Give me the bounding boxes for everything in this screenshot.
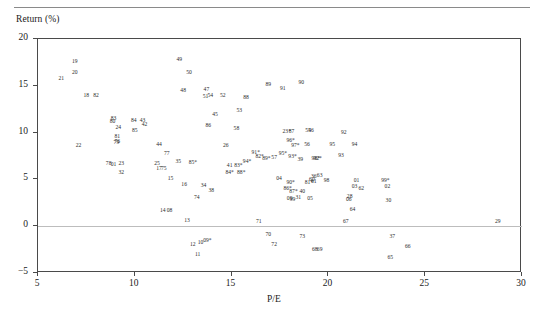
data-point-label: 35 <box>176 160 182 166</box>
data-point-label: 45 <box>212 112 218 118</box>
y-tick-mark <box>33 178 38 179</box>
data-point-label: 29 <box>495 219 501 225</box>
data-point-label: 08 <box>167 208 173 214</box>
data-point-label: 31 <box>296 195 302 201</box>
data-point-label: 04 <box>276 177 282 183</box>
data-point-label: 85 <box>132 128 138 134</box>
data-point-label: 65 <box>388 255 394 261</box>
data-point-label: 39 <box>297 157 303 163</box>
y-tick-label: 10 <box>2 126 28 136</box>
data-point-label: 19 <box>72 60 78 66</box>
data-point-label: 73 <box>299 235 305 241</box>
data-point-label: 95 <box>329 142 335 148</box>
data-point-label: 48 <box>180 89 186 95</box>
data-point-label: 50 <box>186 70 192 76</box>
x-tick-label: 15 <box>216 278 246 288</box>
data-point-label: 12 <box>190 242 196 248</box>
y-tick-label: 20 <box>2 32 28 42</box>
x-tick-mark <box>37 272 38 276</box>
data-point-label: 87 <box>289 129 295 135</box>
data-point-label: 37 <box>389 235 395 241</box>
y-tick-label: −5 <box>2 266 28 276</box>
data-point-label: 82 <box>93 93 99 99</box>
data-point-label: 24 <box>116 125 122 131</box>
data-point-label: 11 <box>195 252 200 258</box>
data-point-label: 01 <box>111 162 117 168</box>
data-point-label: 32 <box>118 170 124 176</box>
data-point-label: 09* <box>203 238 211 244</box>
y-tick-label: 0 <box>2 219 28 229</box>
data-point-label: 75 <box>161 166 167 172</box>
data-point-label: 64 <box>350 207 356 213</box>
data-point-label: 06 <box>346 197 352 203</box>
data-point-label: 46 <box>308 128 314 134</box>
data-point-label: 91 <box>280 87 286 93</box>
data-point-label: 71 <box>256 220 262 226</box>
x-tick-mark <box>521 272 522 276</box>
data-point-label: 22 <box>76 143 82 149</box>
data-point-label: 70 <box>266 233 272 239</box>
data-point-label: 77 <box>164 151 170 157</box>
data-point-label: 66 <box>405 244 411 250</box>
data-point-label: 26 <box>223 143 229 149</box>
data-point-label: 90 <box>298 80 304 86</box>
data-point-label: 92* <box>314 156 322 162</box>
data-point-label: 42 <box>142 122 148 128</box>
data-point-label: 14 <box>160 208 166 214</box>
data-point-label: 05 <box>307 196 313 202</box>
scatter-plot-figure: Return (%) 20151050−5 51015202530 211920… <box>0 0 543 314</box>
data-point-label: 16 <box>181 182 187 188</box>
data-point-label: 58 <box>234 126 240 132</box>
data-point-label: 23 <box>118 162 124 168</box>
data-point-label: 79 <box>114 140 120 146</box>
data-point-label: 97* <box>291 143 299 149</box>
x-tick-mark <box>327 272 328 276</box>
data-point-label: 67 <box>343 220 349 226</box>
data-point-label: 93* <box>288 154 296 160</box>
y-tick-mark <box>33 132 38 133</box>
data-point-label: 72 <box>271 242 277 248</box>
y-tick-label: 5 <box>2 172 28 182</box>
zero-reference-line <box>38 226 522 227</box>
x-tick-label: 30 <box>506 278 536 288</box>
data-point-label: 84 <box>131 119 137 125</box>
data-point-label: 20 <box>72 70 78 76</box>
data-point-label: 85* <box>189 161 197 167</box>
x-tick-label: 25 <box>409 278 439 288</box>
data-point-label: 30 <box>386 198 392 204</box>
data-point-label: 13 <box>184 218 190 224</box>
data-point-label: 52 <box>220 93 226 99</box>
header-rule <box>14 7 530 8</box>
data-point-label: 94 <box>352 142 358 148</box>
data-point-label: 69 <box>317 247 323 253</box>
data-point-label: 88 <box>243 95 249 101</box>
data-point-label: 49 <box>176 58 182 64</box>
data-point-label: 56 <box>304 142 310 148</box>
data-point-label: 15 <box>168 177 174 183</box>
data-point-label: 02 <box>385 184 391 190</box>
data-point-label: 54 <box>207 93 213 99</box>
data-point-label: 44 <box>156 142 162 148</box>
y-axis-label: Return (%) <box>16 14 59 24</box>
data-point-label: 18 <box>84 93 90 99</box>
data-point-label: 99 <box>290 197 296 203</box>
data-point-label: 57 <box>271 155 277 161</box>
data-point-label: 34 <box>201 183 207 189</box>
data-point-label: 21 <box>58 76 64 82</box>
data-point-label: 38 <box>208 188 214 194</box>
data-point-label: 63 <box>317 173 323 179</box>
x-tick-label: 20 <box>312 278 342 288</box>
x-tick-mark <box>424 272 425 276</box>
data-point-label: 74 <box>194 195 200 201</box>
data-point-label: 81* <box>305 180 313 186</box>
data-point-label: 93 <box>338 153 344 159</box>
data-point-label: 89 <box>266 82 272 88</box>
data-point-label: 80 <box>110 119 116 125</box>
data-point-label: 94* <box>243 159 251 165</box>
data-point-label: 03 <box>352 184 358 190</box>
y-tick-mark <box>33 225 38 226</box>
y-tick-mark <box>33 38 38 39</box>
data-point-label: 95* <box>279 151 287 157</box>
data-point-label: 92 <box>341 131 347 137</box>
data-point-label: 84* <box>225 170 233 176</box>
